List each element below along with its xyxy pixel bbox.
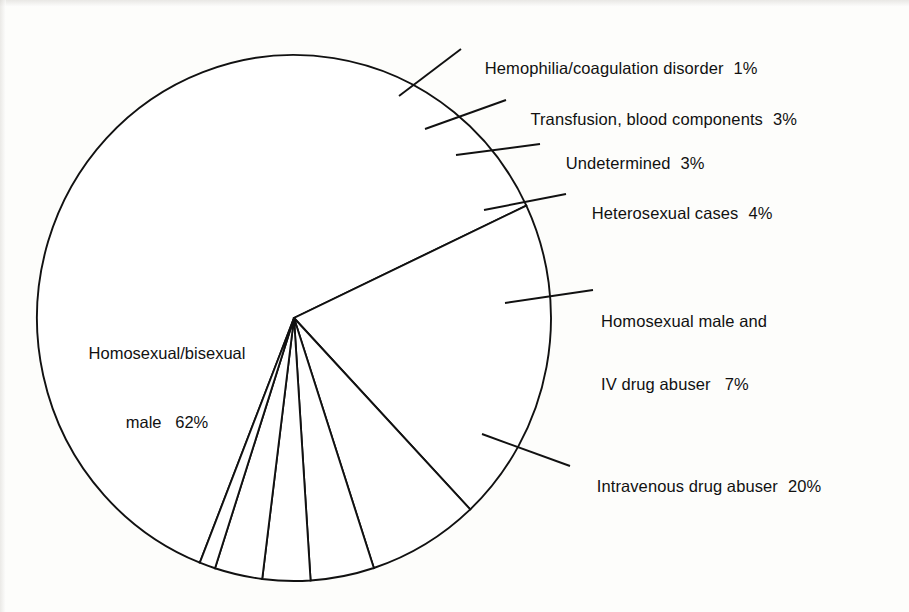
slice-label-transfusion-text: Transfusion, blood components (530, 110, 763, 128)
slice-label-homosexual-iv-line1: Homosexual male and (601, 311, 767, 332)
slice-label-hemophilia-text: Hemophilia/coagulation disorder (485, 59, 724, 77)
slice-value-undetermined: 3% (681, 154, 705, 172)
slice-label-homosexual-iv: Homosexual male and IV drug abuser 7% (601, 269, 767, 437)
leader-line-hemophilia (399, 49, 461, 96)
slice-label-line2: male 62% (52, 411, 282, 434)
slice-label-homosexual-bisexual-male: Homosexual/bisexual male 62% (52, 296, 282, 480)
slice-value-hemophilia: 1% (734, 59, 758, 77)
slice-label-heterosexual-text: Heterosexual cases (592, 204, 739, 222)
slice-label-intravenous: Intravenous drug abuser20% (578, 455, 821, 518)
slice-label-intravenous-text: Intravenous drug abuser (597, 477, 778, 495)
slice-value-transfusion: 3% (773, 110, 797, 128)
slice-label-undetermined-text: Undetermined (566, 154, 671, 172)
slice-label-heterosexual: Heterosexual cases4% (573, 182, 773, 245)
slice-value-intravenous: 20% (788, 477, 821, 495)
slice-label-line1: Homosexual/bisexual (52, 342, 282, 365)
figure-canvas: Homosexual/bisexual male 62% Hemophilia/… (0, 0, 909, 612)
slice-label-homosexual-iv-line2: IV drug abuser 7% (601, 374, 767, 395)
slice-value-heterosexual: 4% (748, 204, 772, 222)
